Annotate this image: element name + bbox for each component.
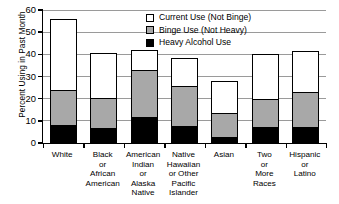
bar-segment-heavy-alcohol-use — [253, 127, 278, 142]
y-axis-tick — [38, 98, 43, 99]
bar-segment-heavy-alcohol-use — [172, 126, 197, 142]
stacked-bar-chart: Percent Using in Past Month 010203040506… — [0, 0, 339, 204]
legend-swatch-current-use-icon — [146, 14, 154, 22]
bar-segment-binge-use — [132, 70, 157, 117]
x-axis-label-line: Asian — [204, 150, 244, 160]
x-axis-label-line: African — [82, 169, 122, 179]
x-axis-label-line: or — [244, 160, 284, 170]
bar-1 — [90, 53, 117, 143]
gridline — [43, 10, 326, 11]
y-axis-tick — [38, 54, 43, 55]
y-axis-tick-label: 0 — [31, 138, 36, 147]
y-axis-tick-label: 20 — [26, 94, 36, 103]
x-axis-label-line: American — [82, 179, 122, 189]
x-axis-label-4: Asian — [204, 150, 244, 160]
gridline — [43, 54, 326, 55]
x-axis-label-line: Black — [82, 150, 122, 160]
x-axis-tick — [245, 143, 246, 148]
x-axis-label-line: Native — [163, 150, 203, 160]
y-axis-tick-label: 10 — [26, 116, 36, 125]
x-axis-label-line: or — [123, 169, 163, 179]
x-axis-label-line: Alaska — [123, 179, 163, 189]
bar-segment-heavy-alcohol-use — [51, 125, 76, 142]
x-axis-label-6: HispanicorLatino — [285, 150, 325, 179]
bar-6 — [292, 51, 319, 143]
x-axis-label-0: White — [42, 150, 82, 160]
legend-label-heavy-use: Heavy Alcohol Use — [159, 38, 231, 47]
y-axis-tick-label: 40 — [26, 50, 36, 59]
y-axis-tick-label: 30 — [26, 72, 36, 81]
bar-segment-binge-use — [293, 92, 318, 127]
legend-item-binge-use: Binge Use (Not Heavy) — [146, 25, 251, 37]
legend-label-binge-use: Binge Use (Not Heavy) — [159, 26, 247, 35]
legend-item-current-use: Current Use (Not Binge) — [146, 12, 251, 24]
x-axis-tick — [205, 143, 206, 148]
x-axis-label-line: Two — [244, 150, 284, 160]
bar-segment-heavy-alcohol-use — [212, 137, 237, 142]
bar-3 — [171, 58, 198, 143]
legend-swatch-binge-use-icon — [146, 26, 154, 34]
legend-item-heavy-use: Heavy Alcohol Use — [146, 37, 251, 49]
x-axis-tick — [164, 143, 165, 148]
x-axis-label-line: or Other — [163, 169, 203, 179]
legend-label-current-use: Current Use (Not Binge) — [159, 13, 251, 22]
y-axis-tick — [38, 31, 43, 32]
bar-segment-binge-use — [51, 90, 76, 125]
x-axis-tick — [43, 143, 44, 148]
bar-segment-binge-use — [253, 99, 278, 127]
x-axis-label-5: TwoorMoreRaces — [244, 150, 284, 188]
x-axis-label-line: or — [285, 160, 325, 170]
x-axis-tick — [124, 143, 125, 148]
y-axis-tick — [38, 76, 43, 77]
bar-2 — [131, 50, 158, 143]
bar-segment-binge-use — [172, 86, 197, 126]
chart-legend: Current Use (Not Binge) Binge Use (Not H… — [146, 12, 251, 50]
bar-segment-heavy-alcohol-use — [132, 117, 157, 142]
y-axis-title: Percent Using in Past Month — [18, 0, 27, 130]
x-axis-label-line: White — [42, 150, 82, 160]
x-axis-tick — [83, 143, 84, 148]
bar-segment-binge-use — [212, 113, 237, 137]
x-axis-label-line: Hispanic — [285, 150, 325, 160]
x-axis-label-line: Pacific — [163, 179, 203, 189]
x-axis-tick — [286, 143, 287, 148]
x-axis-tick — [326, 143, 327, 148]
x-axis-label-line: More — [244, 169, 284, 179]
y-axis-tick-label: 60 — [26, 5, 36, 14]
x-axis-label-2: AmericanIndianorAlaskaNative — [123, 150, 163, 198]
y-axis-tick — [38, 9, 43, 10]
x-axis-label-line: Indian — [123, 160, 163, 170]
x-axis-label-line: or — [82, 160, 122, 170]
bar-segment-heavy-alcohol-use — [91, 128, 116, 142]
x-axis-label-1: BlackorAfricanAmerican — [82, 150, 122, 188]
x-axis-label-line: Islander — [163, 188, 203, 198]
y-axis-tick — [38, 120, 43, 121]
bar-segment-heavy-alcohol-use — [293, 127, 318, 142]
bar-0 — [50, 19, 77, 143]
bar-4 — [211, 81, 238, 143]
bar-5 — [252, 54, 279, 143]
x-axis-label-line: Hawaiian — [163, 160, 203, 170]
bar-segment-binge-use — [91, 98, 116, 128]
legend-swatch-heavy-use-icon — [146, 39, 154, 47]
y-axis-tick-label: 50 — [26, 27, 36, 36]
x-axis-label-line: Latino — [285, 169, 325, 179]
x-axis-label-3: NativeHawaiianor OtherPacificIslander — [163, 150, 203, 198]
x-axis-label-line: Native — [123, 188, 163, 198]
x-axis-label-line: Races — [244, 179, 284, 189]
x-axis-label-line: American — [123, 150, 163, 160]
